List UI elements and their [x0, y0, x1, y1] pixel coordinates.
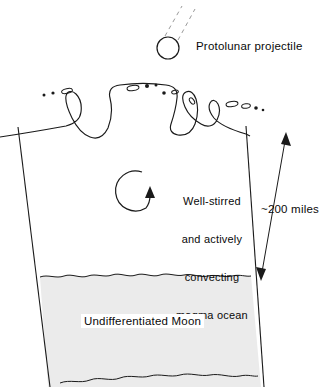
trajectory-line-right: [178, 9, 195, 40]
trajectory-line-left: [165, 6, 182, 36]
projectile-label: Protolunar projectile: [196, 40, 302, 52]
magma-label-line-2: and actively: [176, 233, 248, 246]
magma-label-line-3: convecting: [176, 271, 248, 284]
diagram-canvas: Protolunar projectile Well-stirred and a…: [0, 0, 325, 387]
moon-magma-ocean-diagram: [0, 0, 325, 387]
circular-arrow-head: [145, 186, 155, 198]
ejected-droplets-right: [226, 101, 265, 112]
circular-arrow-icon: [116, 171, 150, 211]
magma-surface-splash: [0, 84, 250, 138]
magma-label-line-1: Well-stirred: [176, 195, 248, 208]
dimension-arrow-bottom: [256, 267, 266, 281]
scale-label: ~200 miles: [261, 203, 319, 215]
vessel-left-wall: [18, 127, 50, 387]
undifferentiated-moon-label: Undifferentiated Moon: [81, 314, 204, 328]
projectile-circle-icon: [157, 37, 179, 59]
dimension-arrow-top: [281, 132, 291, 146]
ejected-droplets-center: [127, 84, 196, 106]
